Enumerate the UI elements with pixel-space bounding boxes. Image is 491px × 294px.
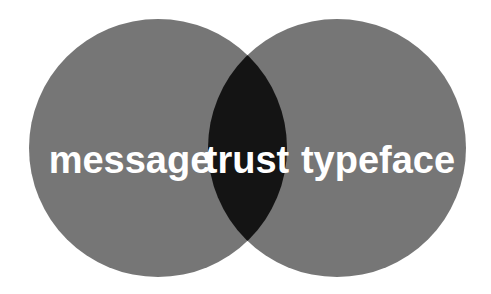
label-typeface: typeface — [301, 139, 455, 181]
label-message: message — [49, 139, 212, 181]
label-trust: trust — [205, 139, 290, 181]
venn-diagram: message trust typeface — [0, 0, 491, 294]
